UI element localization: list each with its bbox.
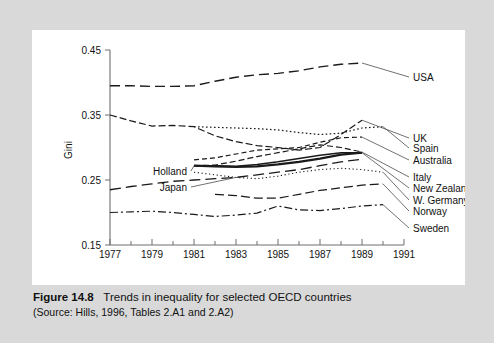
y-axis-ticks [105,50,110,245]
series-label-spain: Spain [413,143,439,154]
leader-line [362,137,409,160]
y-axis-tick-labels: 0.150.250.350.45 [82,45,102,251]
series-line [110,115,362,150]
page-background: 0.150.250.350.45 19771979198119831985198… [0,0,494,343]
y-axis-title: Gini [63,141,74,159]
x-tick-label: 1985 [267,249,290,260]
series-line [110,205,383,217]
series-label-usa: USA [413,72,434,83]
x-axis-tick-labels: 19771979198119831985198719891991 [99,249,416,260]
series-label-italy: Italy [413,172,431,183]
series-label-holland: Holland [153,166,187,177]
series-line [194,127,383,135]
caption-source: (Source: Hills, 1996, Tables 2.A1 and 2.… [33,306,473,320]
x-tick-label: 1977 [99,249,122,260]
leader-line [191,166,194,171]
series-label-new-zealand: New Zealand [413,183,465,194]
chart-leader-lines [191,63,409,228]
x-axis-ticks [110,239,404,245]
y-tick-label: 0.45 [82,45,102,56]
caption-figure-number: Figure 14.8 [33,291,94,303]
series-label-australia: Australia [413,155,452,166]
chart-series-lines [110,63,383,216]
leader-line [383,172,409,200]
series-label-w-germany: W. Germany [413,195,465,206]
y-tick-label: 0.35 [82,110,102,121]
chart-axes [110,50,404,245]
leader-line [362,153,409,188]
x-tick-label: 1987 [309,249,332,260]
caption-title: Trends in inequality for selected OECD c… [103,291,351,303]
leader-line [362,152,409,177]
leader-line [383,205,409,228]
y-tick-label: 0.25 [82,175,102,186]
series-line [215,184,383,198]
figure-caption: Figure 14.8 Trends in inequality for sel… [33,290,473,320]
series-label-japan: Japan [160,182,187,193]
series-line [110,63,362,86]
series-label-norway: Norway [413,206,447,217]
chart-series-labels: USAUKSpainAustraliaItalyNew ZealandW. Ge… [153,72,465,234]
x-tick-label: 1989 [351,249,374,260]
x-tick-label: 1979 [141,249,164,260]
leader-line [383,184,409,211]
series-line [194,153,362,167]
caption-line-title: Figure 14.8 Trends in inequality for sel… [33,290,473,305]
x-tick-label: 1981 [183,249,206,260]
line-chart: 0.150.250.350.45 19771979198119831985198… [32,30,465,285]
series-line [194,168,383,178]
leader-line [383,127,409,148]
leader-line [362,63,409,77]
series-label-sweden: Sweden [413,223,449,234]
figure-panel: 0.150.250.350.45 19771979198119831985198… [32,30,465,285]
x-tick-label: 1983 [225,249,248,260]
x-tick-label: 1991 [393,249,416,260]
series-line [110,159,362,190]
